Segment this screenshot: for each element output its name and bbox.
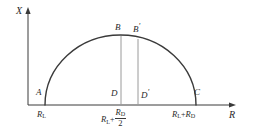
tick-label-right: RL+RD [172, 110, 195, 120]
tick-left-sub: L [42, 112, 46, 119]
tick-middle-fraction: RD2 [115, 108, 127, 128]
point-label-d-prime-mark: ' [148, 88, 150, 97]
point-label-b: B [115, 23, 121, 32]
semicircle-diagram-figure: X R A B B' D D' C RL RL+RD2 RL+RD [0, 0, 253, 135]
x-axis-group [25, 7, 30, 105]
tick-label-middle: RL+RD2 [101, 108, 126, 128]
point-label-c: C [194, 88, 200, 97]
point-label-d-prime: D' [141, 89, 149, 100]
point-label-a: A [36, 88, 42, 97]
x-axis-label: X [16, 6, 22, 16]
r-axis-group [28, 102, 236, 107]
point-label-b-prime-mark: ' [139, 22, 141, 31]
r-axis-label: R [229, 110, 235, 120]
tick-right-term2-sub: D [191, 112, 195, 119]
tick-middle-denominator: 2 [115, 119, 127, 128]
point-label-d: D [111, 89, 118, 98]
r-axis-arrowhead [229, 102, 236, 107]
x-axis-arrowhead [25, 7, 30, 14]
tick-middle-numerator-sub: D [121, 110, 125, 117]
point-label-b-prime: B' [133, 23, 140, 34]
tick-label-left: RL [37, 110, 46, 120]
